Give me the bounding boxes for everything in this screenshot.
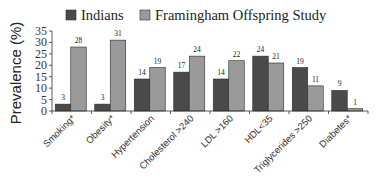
x-tick-label: Diabetes* bbox=[317, 112, 354, 149]
y-axis: 05101520253035 bbox=[35, 24, 52, 118]
bar-value-label: 3 bbox=[101, 93, 105, 102]
bar bbox=[189, 56, 205, 111]
bar-value-label: 1 bbox=[353, 98, 357, 107]
bar-value-label: 11 bbox=[312, 75, 319, 84]
bar-value-label: 22 bbox=[233, 50, 241, 59]
bar bbox=[268, 63, 284, 111]
bar-value-label: 21 bbox=[272, 52, 280, 61]
bar-value-label: 19 bbox=[154, 57, 162, 66]
bar-value-label: 24 bbox=[257, 45, 265, 54]
bar-value-label: 19 bbox=[296, 57, 304, 66]
bar-value-label: 17 bbox=[178, 61, 186, 70]
bar bbox=[174, 72, 190, 111]
legend-swatch bbox=[140, 10, 150, 20]
bar-value-label: 28 bbox=[75, 36, 83, 45]
legend: IndiansFramingham Offspring Study bbox=[66, 7, 327, 23]
bar bbox=[55, 104, 71, 111]
bar bbox=[253, 56, 269, 111]
x-tick-label: Obesity* bbox=[83, 112, 116, 145]
bar bbox=[134, 79, 150, 111]
legend-item-0: Indians bbox=[66, 7, 124, 23]
x-axis: Smoking*Obesity*HypertensionCholesterol … bbox=[41, 111, 368, 175]
legend-item-1: Framingham Offspring Study bbox=[140, 7, 327, 23]
bar-value-label: 3 bbox=[61, 93, 65, 102]
bar bbox=[150, 68, 166, 111]
bar bbox=[229, 61, 245, 111]
y-axis-label: Prevalence (%) bbox=[7, 22, 24, 125]
bar-value-label: 14 bbox=[138, 68, 146, 77]
x-tick-label: LDL >160 bbox=[198, 113, 235, 150]
x-tick-label: HDL<35 bbox=[242, 113, 275, 146]
legend-swatch bbox=[66, 10, 76, 20]
bar-value-label: 14 bbox=[217, 68, 225, 77]
bar bbox=[332, 90, 348, 111]
legend-label: Framingham Offspring Study bbox=[155, 7, 327, 23]
bar bbox=[213, 79, 229, 111]
bar-value-label: 9 bbox=[338, 79, 342, 88]
bar-chart: IndiansFramingham Offspring Study Preval… bbox=[0, 0, 378, 190]
bar-value-label: 31 bbox=[114, 29, 122, 38]
bar bbox=[292, 68, 308, 111]
bar bbox=[110, 40, 126, 111]
bar bbox=[71, 47, 87, 111]
bar bbox=[95, 104, 111, 111]
bar-value-label: 24 bbox=[193, 45, 201, 54]
bar bbox=[308, 86, 324, 111]
bars: 3283311419172414222421191191 bbox=[55, 29, 363, 111]
legend-label: Indians bbox=[81, 7, 124, 23]
y-tick-label: 35 bbox=[35, 24, 47, 38]
